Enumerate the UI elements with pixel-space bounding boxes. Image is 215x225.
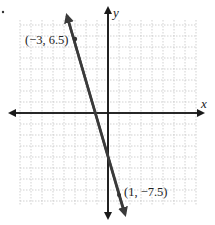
coordinate-plane: x y (−3, 6.5) (1, −7.5) xyxy=(0,0,215,225)
point-b xyxy=(117,193,121,197)
point-a-label: (−3, 6.5) xyxy=(25,33,69,47)
y-axis-label: y xyxy=(111,5,119,20)
graph-line-lower xyxy=(67,16,125,214)
point-b-label: (1, −7.5) xyxy=(124,185,168,199)
point-a xyxy=(73,37,77,41)
x-axis-label: x xyxy=(200,96,207,111)
corner-mark xyxy=(2,11,4,13)
